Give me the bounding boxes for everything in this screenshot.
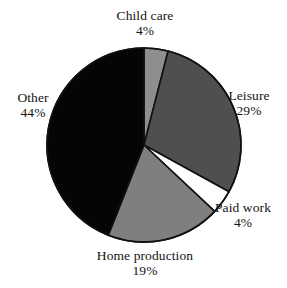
slice-label-leisure: Leisure 29% <box>214 88 284 118</box>
pie-chart-graphic <box>0 0 287 288</box>
slice-label-paid-work: Paid work 4% <box>202 200 284 230</box>
slice-label-home-production-name: Home production <box>76 248 214 263</box>
slice-label-paid-work-value: 4% <box>202 215 284 230</box>
slice-label-other-name: Other <box>2 90 64 105</box>
slice-label-other-value: 44% <box>2 105 64 120</box>
slice-label-child-care: Child care 4% <box>92 8 198 38</box>
slice-label-paid-work-name: Paid work <box>202 200 284 215</box>
pie-chart: Child care 4% Leisure 29% Paid work 4% H… <box>0 0 287 288</box>
slice-label-child-care-name: Child care <box>92 8 198 23</box>
slice-label-leisure-name: Leisure <box>214 88 284 103</box>
slice-label-home-production: Home production 19% <box>76 248 214 278</box>
slice-label-home-production-value: 19% <box>76 263 214 278</box>
slice-label-child-care-value: 4% <box>92 23 198 38</box>
slice-label-other: Other 44% <box>2 90 64 120</box>
slice-label-leisure-value: 29% <box>214 103 284 118</box>
